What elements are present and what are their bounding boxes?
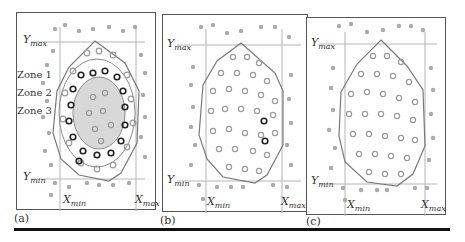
ymin-label: Ymin	[167, 173, 190, 188]
xmin-label: Xmin	[207, 195, 230, 210]
bottom-rule	[14, 228, 450, 231]
zone-2-label: Zone 2	[17, 87, 52, 98]
caption-a: (a)	[14, 212, 29, 225]
caption-c: (c)	[306, 215, 321, 228]
panel-a: Ymax Ymin Xmin Xmax Zone 1 Zone 2 Zone 3	[16, 12, 156, 210]
xmax-label: Xmax	[421, 198, 446, 213]
xmin-label: Xmin	[347, 198, 370, 213]
ymin-label: Ymin	[23, 170, 46, 185]
ymin-label: Ymin	[311, 174, 334, 189]
xmin-label: Xmin	[63, 193, 86, 208]
xmax-label: Xmax	[281, 195, 306, 210]
ymax-label: Ymax	[23, 33, 47, 48]
zone-1-label: Zone 1	[17, 69, 52, 80]
panel-b: Ymax Ymin Xmin Xmax	[162, 14, 308, 212]
panel-c: Ymax Ymin Xmin Xmax	[306, 17, 446, 215]
caption-b: (b)	[160, 214, 176, 227]
zone-3-label: Zone 3	[17, 105, 52, 116]
ymax-label: Ymax	[167, 37, 191, 52]
xmax-label: Xmax	[135, 193, 160, 208]
ymax-label: Ymax	[311, 36, 335, 51]
